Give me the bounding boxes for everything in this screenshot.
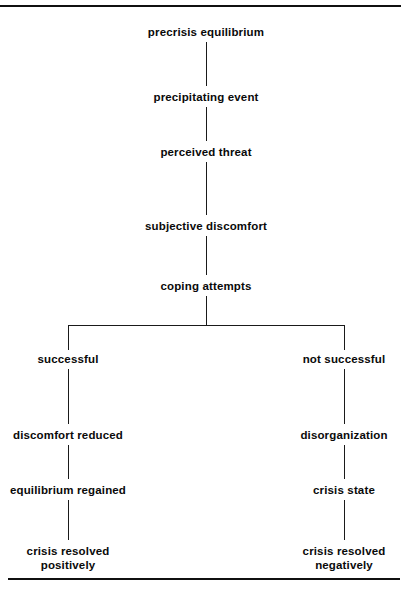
node-crisis-state: crisis state bbox=[313, 483, 375, 497]
edge-threat-to-discomfort bbox=[206, 162, 207, 215]
edge-branch-to-not-successful bbox=[344, 325, 345, 350]
node-discomfort-reduced: discomfort reduced bbox=[13, 428, 123, 442]
node-crisis-resolved-positively-line1: crisis resolved bbox=[27, 544, 110, 558]
node-precrisis-equilibrium: precrisis equilibrium bbox=[148, 25, 264, 39]
node-not-successful: not successful bbox=[303, 352, 386, 366]
node-successful: successful bbox=[38, 352, 99, 366]
edge-disorganization-to-crisis-state bbox=[344, 445, 345, 479]
node-subjective-discomfort: subjective discomfort bbox=[145, 219, 267, 233]
edge-discomfort-reduced-to-equilibrium-regained bbox=[68, 445, 69, 479]
bottom-rule bbox=[8, 578, 400, 580]
branch-bar bbox=[68, 325, 345, 326]
node-crisis-resolved-positively-line2: positively bbox=[41, 558, 96, 572]
edge-precipitating-to-threat bbox=[206, 107, 207, 141]
node-perceived-threat: perceived threat bbox=[160, 145, 251, 159]
edge-precrisis-to-precipitating bbox=[206, 42, 207, 86]
node-precipitating-event: precipitating event bbox=[153, 90, 258, 104]
edge-equilibrium-regained-to-crisis-resolved-positively bbox=[68, 500, 69, 540]
flowchart-page: precrisis equilibrium precipitating even… bbox=[0, 0, 412, 590]
node-coping-attempts: coping attempts bbox=[160, 279, 251, 293]
top-rule bbox=[0, 5, 401, 7]
edge-discomfort-to-coping bbox=[206, 236, 207, 275]
node-disorganization: disorganization bbox=[300, 428, 387, 442]
node-crisis-resolved-negatively-line2: negatively bbox=[315, 558, 373, 572]
edge-not-successful-to-disorganization bbox=[344, 369, 345, 424]
edge-crisis-state-to-crisis-resolved-negatively bbox=[344, 500, 345, 540]
node-crisis-resolved-negatively-line1: crisis resolved bbox=[303, 544, 386, 558]
edge-successful-to-discomfort-reduced bbox=[68, 369, 69, 424]
edge-coping-to-branch-stem bbox=[206, 296, 207, 326]
node-equilibrium-regained: equilibrium regained bbox=[10, 483, 126, 497]
edge-branch-to-successful bbox=[68, 325, 69, 350]
